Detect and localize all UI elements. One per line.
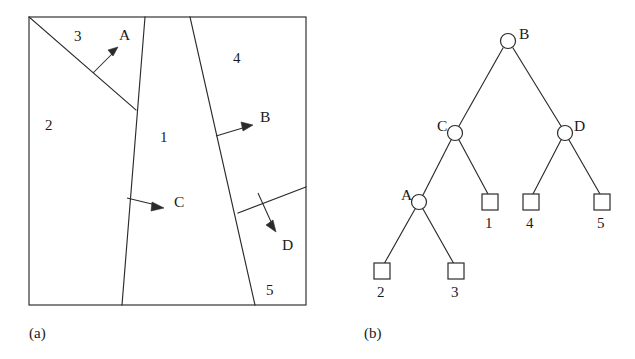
tree-leaf-label-2: 2: [377, 285, 385, 300]
split-line-d: [238, 187, 306, 213]
leader-arrow-b: [216, 122, 253, 136]
tree-node-label-d: D: [574, 118, 585, 134]
region-label-1: 1: [160, 130, 168, 145]
edge-b-d: [513, 48, 561, 126]
panel-b-bsp-tree: B C D A 1 4 5 2 3 (b): [318, 0, 635, 359]
partition-svg: [0, 0, 318, 359]
tree-node-c: [448, 126, 463, 141]
edge-c-a: [423, 140, 451, 195]
edge-d-4: [533, 140, 561, 194]
tree-leaf-3: [448, 263, 464, 279]
tree-leaf-1: [482, 194, 498, 210]
tree-leaf-label-1: 1: [485, 216, 493, 231]
panel-a-partition-diagram: 1 2 3 4 5 A B C D (a): [0, 0, 318, 359]
panel-b-caption: (b): [364, 325, 382, 342]
tree-svg: [318, 0, 635, 359]
split-label-b: B: [260, 109, 270, 125]
split-label-a: A: [119, 27, 130, 43]
tree-node-a: [412, 195, 427, 210]
tree-leaf-4: [523, 194, 539, 210]
split-label-c: C: [174, 194, 184, 210]
region-label-4: 4: [233, 51, 241, 66]
tree-node-label-a: A: [401, 187, 412, 203]
panel-a-caption: (a): [29, 325, 46, 342]
edge-a-2: [384, 209, 415, 264]
edge-b-c: [459, 48, 503, 126]
edge-c-1: [459, 140, 488, 194]
tree-leaf-label-5: 5: [597, 216, 605, 231]
region-label-2: 2: [45, 118, 53, 133]
split-line-c: [122, 17, 145, 305]
tree-node-d: [558, 126, 573, 141]
leader-arrow-c: [127, 198, 164, 211]
edge-d-5: [569, 140, 600, 194]
tree-node-label-c: C: [437, 118, 447, 134]
split-label-d: D: [282, 237, 293, 253]
leader-arrow-a: [93, 47, 118, 73]
region-label-3: 3: [74, 29, 82, 44]
figure-root: 1 2 3 4 5 A B C D (a): [0, 0, 635, 359]
partition-boundary-rect: [29, 17, 306, 305]
region-label-5: 5: [266, 283, 274, 298]
edge-a-3: [423, 209, 454, 264]
tree-node-b: [501, 34, 516, 49]
tree-leaf-5: [594, 194, 610, 210]
tree-node-label-b: B: [519, 26, 529, 42]
tree-leaf-2: [374, 263, 390, 279]
tree-edges: [384, 48, 600, 264]
leader-arrow-d: [258, 193, 276, 232]
split-line-b: [190, 17, 255, 305]
tree-leaf-label-3: 3: [451, 285, 459, 300]
tree-leaf-label-4: 4: [526, 216, 534, 231]
